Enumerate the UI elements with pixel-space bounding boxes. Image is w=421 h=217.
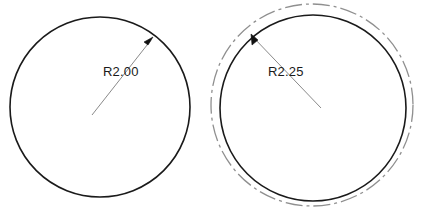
left-solid-circle <box>10 17 190 197</box>
left-radius-label: R2.00 <box>103 64 139 79</box>
right-dashed-offset-circle <box>211 4 413 206</box>
technical-drawing: R2.00 R2.25 <box>0 0 421 217</box>
left-leader-arrowhead <box>144 37 153 45</box>
right-radius-label: R2.25 <box>268 64 304 79</box>
right-figure-group: R2.25 <box>211 4 413 206</box>
right-solid-circle <box>220 15 406 201</box>
drawing-canvas: R2.00 R2.25 <box>0 0 421 217</box>
left-figure-group: R2.00 <box>10 17 190 197</box>
